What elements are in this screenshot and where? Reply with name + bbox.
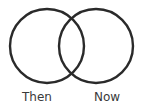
venn-diagram: Then Now bbox=[0, 0, 144, 107]
venn-label-then: Then bbox=[21, 90, 52, 104]
venn-circle-now bbox=[59, 9, 133, 83]
venn-circle-then bbox=[10, 9, 84, 83]
venn-label-now: Now bbox=[94, 90, 120, 104]
